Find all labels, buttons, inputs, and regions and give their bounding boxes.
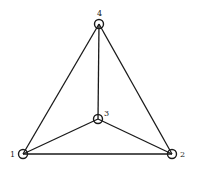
nodes-group — [19, 20, 177, 159]
graph-diagram: 1 2 3 4 — [0, 0, 197, 171]
node-label-2: 2 — [180, 150, 185, 159]
edge-1-4 — [23, 24, 99, 154]
edge-2-3 — [98, 119, 172, 154]
node-label-1: 1 — [10, 150, 15, 159]
edge-1-3 — [23, 119, 98, 154]
node-label-4: 4 — [97, 9, 102, 18]
edge-3-4 — [98, 24, 99, 119]
edges-group — [23, 24, 172, 154]
labels-group: 1 2 3 4 — [10, 9, 185, 159]
node-label-3: 3 — [104, 109, 109, 118]
edge-2-4 — [99, 24, 172, 154]
